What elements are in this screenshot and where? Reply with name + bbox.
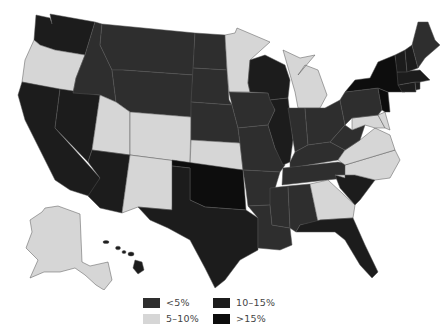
state-NM <box>122 155 177 213</box>
legend-swatch <box>213 314 230 324</box>
legend-item-lt5: <5% <box>143 297 190 308</box>
legend-item-gt15: >15% <box>213 313 266 324</box>
state-MS <box>270 186 290 228</box>
state-MT <box>100 24 195 75</box>
legend-item-5to10: 5–10% <box>143 313 199 324</box>
state-ME <box>412 22 440 68</box>
legend-label: <5% <box>166 297 190 308</box>
state-CO <box>130 112 191 163</box>
state-AK <box>26 206 112 290</box>
legend-swatch <box>143 298 160 308</box>
legend-item-10to15: 10–15% <box>213 297 275 308</box>
legend-swatch <box>143 314 160 324</box>
state-ND <box>193 33 227 70</box>
legend-swatch <box>213 298 230 308</box>
state-SD <box>191 68 232 105</box>
legend: <5% 5–10% 10–15% >15% <box>143 293 343 333</box>
legend-label: >15% <box>236 313 266 324</box>
legend-label: 5–10% <box>166 313 199 324</box>
us-choropleth-map <box>0 0 446 290</box>
state-FL <box>296 218 378 278</box>
state-RI <box>415 82 420 90</box>
legend-label: 10–15% <box>236 297 275 308</box>
